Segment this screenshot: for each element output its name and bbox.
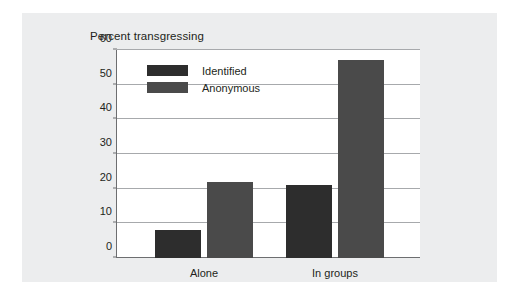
y-axis-tick-mark (113, 153, 117, 154)
bar (338, 60, 384, 258)
y-axis-tick-mark (113, 257, 117, 258)
legend-label: Anonymous (202, 82, 260, 94)
y-axis-tick-label: 10 (100, 205, 112, 217)
x-axis-category-label: In groups (312, 267, 358, 279)
y-axis-tick-mark (113, 187, 117, 188)
legend-item: Anonymous (147, 79, 260, 96)
bar (207, 182, 253, 258)
y-axis-tick-mark (113, 222, 117, 223)
y-axis-tick-label: 60 (100, 32, 112, 44)
chart-legend: IdentifiedAnonymous (147, 62, 260, 96)
y-axis-tick-mark (113, 49, 117, 50)
y-axis-tick-label: 50 (100, 67, 112, 79)
bar-fill (207, 182, 253, 258)
bar (286, 185, 332, 258)
figure-panel: Percent transgressing 0102030405060 Alon… (22, 13, 497, 282)
legend-color-swatch (147, 65, 188, 76)
bar-fill (338, 60, 384, 258)
y-axis-tick-label: 40 (100, 101, 112, 113)
bar-fill (155, 230, 201, 258)
y-axis-tick-label: 20 (100, 171, 112, 183)
bar (155, 230, 201, 258)
gridline (117, 49, 420, 50)
legend-swatch-fill (147, 82, 188, 93)
legend-label: Identified (202, 65, 247, 77)
y-axis-tick-mark (113, 118, 117, 119)
plot-area: 0102030405060 AloneIn groups IdentifiedA… (116, 50, 420, 258)
legend-item: Identified (147, 62, 260, 79)
y-axis-tick-mark (113, 83, 117, 84)
bar-fill (286, 185, 332, 258)
x-axis-category-label: Alone (190, 267, 218, 279)
y-axis-tick-label: 0 (106, 240, 112, 252)
y-axis-tick-label: 30 (100, 136, 112, 148)
legend-color-swatch (147, 82, 188, 93)
legend-swatch-fill (147, 65, 188, 76)
